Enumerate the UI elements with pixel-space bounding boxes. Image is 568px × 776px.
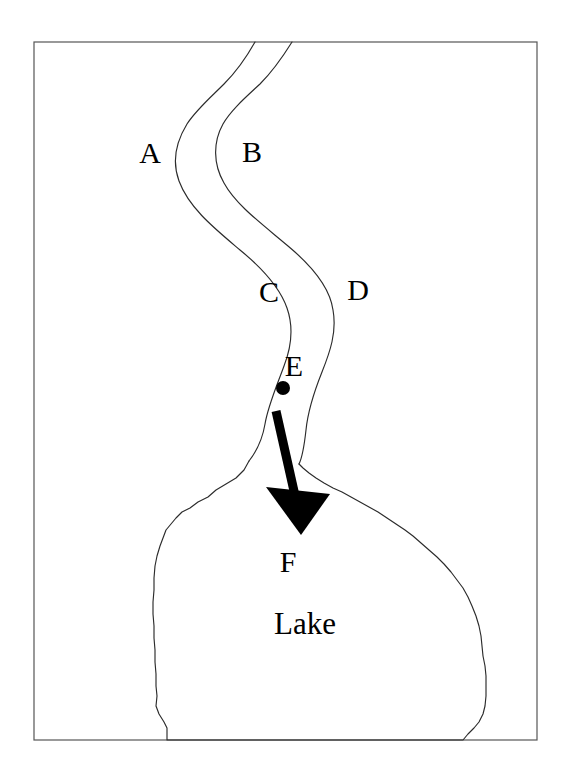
label-c: C [259,275,279,308]
flow-arrow-shaft [276,411,296,500]
flow-arrow-head [266,487,330,535]
label-e: E [285,349,303,382]
river-lake-diagram: A B C D E F Lake [0,0,568,776]
river-right-bank [216,42,335,464]
label-f: F [280,545,297,578]
river-left-bank [176,42,291,461]
figure-root: A B C D E F Lake [0,0,568,776]
label-lake: Lake [274,606,336,641]
sampling-point-dot [276,381,290,395]
label-a: A [139,136,161,169]
label-d: D [347,273,369,306]
label-b: B [242,135,262,168]
